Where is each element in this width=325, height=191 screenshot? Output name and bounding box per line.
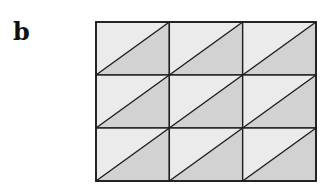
grid-cell	[243, 75, 316, 128]
grid-cell	[169, 75, 242, 128]
grid-cell	[169, 128, 242, 181]
grid-cell	[169, 22, 242, 75]
grid-cell	[243, 128, 316, 181]
grid-cell	[243, 22, 316, 75]
grid-cell	[96, 128, 169, 181]
grid-cell	[96, 75, 169, 128]
triangulated-grid-diagram	[0, 0, 325, 191]
grid-cell	[96, 22, 169, 75]
